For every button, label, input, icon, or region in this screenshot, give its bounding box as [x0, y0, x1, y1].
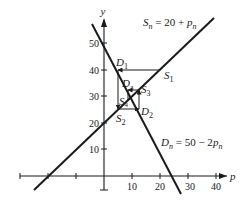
x-tick-label-30: 30	[185, 181, 195, 192]
x-tick-label-10: 10	[127, 181, 137, 192]
x-axis-label: p	[229, 170, 236, 182]
point-label-s4: S4	[119, 95, 129, 109]
y-axis: y 50 40 30 20 10	[89, 5, 108, 190]
y-tick-label-20: 20	[89, 118, 99, 129]
y-tick-label-30: 30	[89, 91, 99, 102]
x-axis-arrow-icon	[219, 173, 227, 179]
point-label-s1: S1	[164, 69, 174, 84]
y-tick-label-50: 50	[89, 38, 99, 49]
x-tick-label-20: 20	[155, 181, 165, 192]
x-tick-label-40: 40	[211, 181, 221, 192]
cobweb-chart: 10 20 30 40 p y 50 40 30 20 10	[0, 0, 244, 207]
point-label-d1: D1	[115, 56, 128, 71]
y-tick-label-40: 40	[89, 65, 99, 76]
point-label-s2: S2	[116, 112, 126, 127]
supply-equation-label: Sn = 20 + pn	[143, 16, 196, 31]
y-axis-label: y	[100, 5, 106, 17]
y-axis-arrow-icon	[101, 18, 107, 27]
demand-equation-label: Dn = 50 − 2pn	[160, 136, 222, 151]
y-tick-label-10: 10	[89, 144, 99, 155]
point-label-s3: S3	[141, 83, 151, 98]
